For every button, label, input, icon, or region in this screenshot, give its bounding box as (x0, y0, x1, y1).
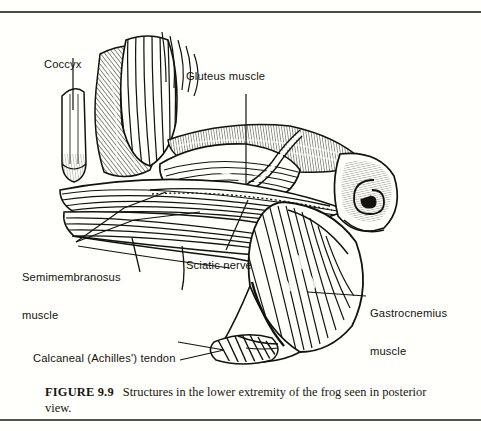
label-calcaneal-achilles-tendon: Calcaneal (Achilles') tendon (33, 352, 176, 365)
label-coccyx: Coccyx (44, 58, 82, 71)
label-gastrocnemius-line2: muscle (370, 345, 447, 358)
knee-joint (332, 150, 406, 234)
top-divider-rule (0, 11, 481, 13)
label-gastrocnemius-muscle: Gastrocnemius muscle (370, 282, 447, 383)
coccyx-structure (58, 89, 90, 184)
label-semimembranosus-line1: Semimembranosus (22, 271, 121, 284)
figure-page: Coccyx Gluteus muscle Semimembranosus mu… (0, 0, 481, 431)
bottom-divider-rule (0, 419, 481, 421)
label-sciatic-nerve: Sciatic nerve (186, 259, 252, 272)
label-semimembranosus-muscle: Semimembranosus muscle (22, 246, 121, 347)
figure-number: FIGURE 9.9 (45, 385, 114, 399)
label-semimembranosus-line2: muscle (22, 309, 121, 322)
figure-caption: FIGURE 9.9Structures in the lower extrem… (45, 385, 445, 416)
label-gastrocnemius-line1: Gastrocnemius (370, 307, 447, 320)
label-gluteus-muscle: Gluteus muscle (186, 70, 265, 83)
anatomical-illustration: Coccyx Gluteus muscle Semimembranosus mu… (0, 14, 481, 374)
